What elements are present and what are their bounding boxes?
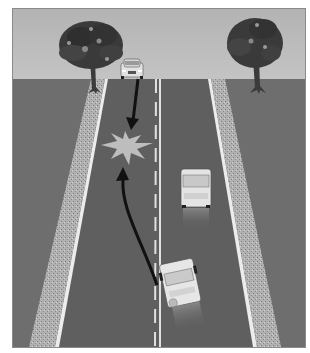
car-oncoming	[121, 59, 143, 79]
car-right-lane	[181, 169, 211, 228]
road-collision-illustration	[12, 8, 306, 348]
